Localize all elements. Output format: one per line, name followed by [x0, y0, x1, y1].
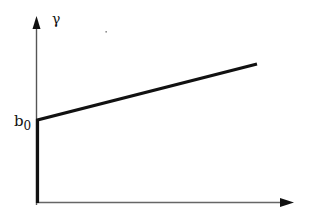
diagram: γ b0: [0, 0, 312, 219]
gamma-curve: [38, 64, 258, 203]
speck-artifact: [106, 31, 107, 33]
intercept-label: b0: [14, 112, 31, 133]
y-axis-arrow-icon: [33, 16, 41, 29]
y-axis-label: γ: [52, 11, 60, 27]
x-axis-arrow-icon: [280, 198, 294, 207]
